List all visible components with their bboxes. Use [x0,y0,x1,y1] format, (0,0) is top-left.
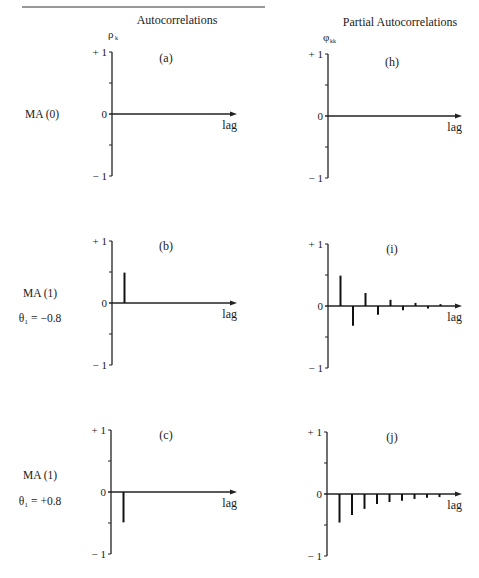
x-axis-label: lag [447,120,462,134]
row-label-ma1-pos: MA (1) [23,469,57,482]
panel-label: (b) [159,239,173,253]
y-tick-label-zero: 0 [318,110,324,122]
chart-panel-c: + 10− 1lag(c) [92,424,237,560]
panel-label: (h) [385,55,399,69]
x-axis-label: lag [222,307,237,321]
x-axis-label: lag [222,118,237,132]
y-tick-label-bottom: − 1 [93,170,107,182]
chart-panel-j: + 10− 1lag(j) [308,426,462,562]
y-tick-label-bottom: − 1 [92,548,106,560]
y-tick-label-top: + 1 [93,46,107,58]
y-tick-label-zero: 0 [102,297,108,309]
row-label-ma1-neg: MA (1) [23,287,57,300]
y-tick-label-top: + 1 [93,235,107,247]
chart-panels: + 10− 1lag(a)+ 10− 1lag(h)+ 10− 1lag(b)+… [92,46,462,562]
x-axis-arrow-icon [455,492,462,497]
param-theta-pos: θ₁ = +0.8 [19,495,62,507]
x-axis-arrow-icon [455,114,462,119]
x-axis-label: lag [222,496,237,510]
y-tick-label-bottom: − 1 [309,172,323,184]
x-axis-arrow-icon [230,112,237,117]
y-tick-label-zero: 0 [318,300,324,312]
y-tick-label-zero: 0 [101,486,107,498]
chart-panel-a: + 10− 1lag(a) [93,46,237,182]
col-header-partial-autocorrelations: Partial Autocorrelations [343,15,458,29]
x-axis-label: lag [447,310,462,324]
x-axis-arrow-icon [455,304,462,309]
chart-panel-b: + 10− 1lag(b) [93,235,237,371]
y-tick-label-top: + 1 [92,424,106,436]
x-axis-label: lag [447,498,462,512]
chart-panel-h: + 10− 1lag(h) [309,48,462,184]
row-label-ma0: MA (0) [25,108,59,121]
chart-panel-i: + 10− 1lag(i) [309,238,462,374]
svg-text:k: k [115,35,118,41]
x-axis-arrow-icon [230,301,237,306]
y-tick-label-zero: 0 [317,488,323,500]
y-tick-label-bottom: − 1 [308,550,322,562]
svg-text:φ: φ [323,31,329,43]
panel-label: (i) [386,242,397,256]
panel-label: (a) [159,51,172,65]
ylabel-phi: φ kk [323,31,336,44]
svg-text:ρ: ρ [108,28,114,40]
figure-canvas: Autocorrelations Partial Autocorrelation… [0,0,479,578]
col-header-autocorrelations: Autocorrelations [137,13,218,27]
y-tick-label-top: + 1 [309,238,323,250]
panel-label: (c) [159,428,172,442]
y-tick-label-zero: 0 [102,108,108,120]
panel-label: (j) [386,430,397,444]
ylabel-rho: ρ k [108,28,118,41]
y-tick-label-top: + 1 [308,426,322,438]
y-tick-label-bottom: − 1 [309,362,323,374]
x-axis-arrow-icon [230,490,237,495]
param-theta-neg: θ₁ = −0.8 [19,312,62,324]
y-tick-label-top: + 1 [309,48,323,60]
y-tick-label-bottom: − 1 [93,359,107,371]
svg-text:kk: kk [330,38,336,44]
